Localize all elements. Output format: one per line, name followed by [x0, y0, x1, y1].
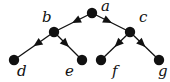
node-label-f: f	[111, 62, 120, 80]
binary-tree-diagram: abcdefg	[0, 0, 170, 82]
node-label-c: c	[139, 8, 148, 26]
node-b	[49, 27, 59, 37]
node-label-b: b	[42, 8, 52, 26]
node-e	[77, 55, 87, 65]
node-c	[125, 27, 135, 37]
node-a	[87, 8, 97, 18]
arrowhead-icon	[34, 38, 44, 46]
node-label-d: d	[17, 62, 27, 80]
node-label-g: g	[158, 62, 168, 80]
edges	[14, 13, 159, 60]
node-label-a: a	[101, 0, 110, 15]
node-f	[96, 55, 106, 65]
node-label-e: e	[65, 62, 74, 80]
